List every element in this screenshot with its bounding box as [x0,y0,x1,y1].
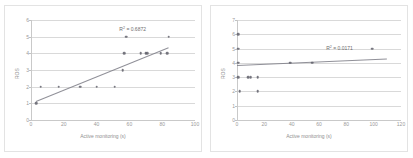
chart-panel-left: 0123456020406080100R2 = 0.6872 Active mo… [0,0,206,158]
x-axis-tick-label: 80 [344,122,350,127]
x-axis-tick-label: 100 [369,122,377,127]
data-point [166,52,169,55]
y-axis-tick-label: 6 [232,32,235,37]
x-axis-tick-label: 60 [316,122,322,127]
data-point [58,85,61,88]
data-point [35,102,38,105]
data-point [238,90,241,93]
x-axis-tick-label: 60 [127,122,133,127]
x-axis-tick-label: 40 [94,122,100,127]
data-point [167,35,170,38]
r-squared-value: = 0.6872 [126,26,146,32]
data-point [122,69,125,72]
y-axis-tick-label: 5 [232,46,235,51]
data-point [125,35,128,38]
y-axis-tick-label: 4 [26,51,29,56]
chart-panel-right: 01234567020406080100120R2 = 0.0171 Activ… [206,0,412,158]
chart-frame-left: 0123456020406080100R2 = 0.6872 Active mo… [4,5,202,152]
gridline [237,91,401,92]
gridline [31,53,195,54]
y-axis-line [31,20,32,120]
data-point [123,52,126,55]
gridline [237,77,401,78]
y-axis-tick-label: 5 [26,34,29,39]
data-point [237,62,240,65]
x-axis-tick-label: 20 [262,122,268,127]
data-point [237,33,240,36]
gridline [237,106,401,107]
data-point [256,76,259,79]
r-squared-annotation: R2 = 0.6872 [119,26,146,32]
x-axis-label-left: Active monitoring (s) [5,134,201,139]
data-point [159,52,162,55]
gridline [237,49,401,50]
r-squared-symbol: R2 [326,45,332,51]
x-axis-tick-label: 20 [61,122,67,127]
y-axis-tick-label: 3 [232,75,235,80]
gridline [31,103,195,104]
x-axis-tick-label: 120 [397,122,405,127]
data-point [289,62,292,65]
y-axis-tick-label: 7 [232,18,235,23]
plot-area-right: 01234567020406080100120R2 = 0.0171 [237,20,401,120]
gridline [31,37,195,38]
x-axis-label-right: Active monitoring (s) [211,134,407,139]
r-squared-value: = 0.0171 [333,45,353,51]
data-point [256,90,259,93]
figure-container: 0123456020406080100R2 = 0.6872 Active mo… [0,0,413,158]
chart-frame-right: 01234567020406080100120R2 = 0.0171 Activ… [210,5,408,152]
data-point [311,62,314,65]
data-point [95,85,98,88]
y-axis-tick-label: 2 [26,84,29,89]
y-axis-tick-label: 0 [232,118,235,123]
data-point [113,85,116,88]
data-point [249,76,252,79]
r-squared-annotation: R2 = 0.0171 [326,45,353,51]
data-point [371,47,374,50]
r-squared-symbol: R2 [119,26,125,32]
y-axis-tick-label: 0 [26,118,29,123]
x-axis-tick-label: 0 [236,122,239,127]
y-axis-tick-label: 6 [26,18,29,23]
x-axis-tick-label: 100 [191,122,199,127]
y-axis-tick-label: 4 [232,60,235,65]
y-axis-tick-label: 1 [26,101,29,106]
plot-area-left: 0123456020406080100R2 = 0.6872 [31,20,195,120]
y-axis-tick-label: 1 [232,103,235,108]
x-axis-tick-label: 0 [30,122,33,127]
data-point [237,47,240,50]
y-axis-label-right: ROS [221,68,226,79]
data-point [146,52,149,55]
x-axis-tick-label: 80 [159,122,165,127]
trendline [36,48,169,103]
data-point [79,85,82,88]
gridline [237,20,401,21]
data-point [237,76,240,79]
y-axis-tick-label: 3 [26,68,29,73]
gridline [31,20,195,21]
data-point [40,85,43,88]
x-axis-line [31,120,195,121]
y-axis-label-left: ROS [15,68,20,79]
x-axis-tick-label: 40 [289,122,295,127]
data-point [140,52,143,55]
y-axis-tick-label: 2 [232,89,235,94]
gridline [237,34,401,35]
